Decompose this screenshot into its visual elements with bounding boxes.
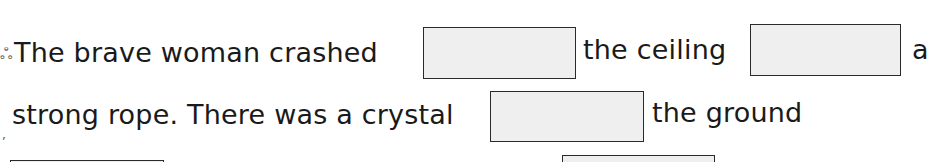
margin-mark: , (2, 128, 6, 142)
sentence-line1-part3: a (912, 34, 929, 66)
sentence-line2-part1: strong rope. There was a crystal (12, 99, 454, 131)
blank-input-4[interactable] (10, 160, 164, 162)
margin-doodle-icon: ஃ (0, 44, 13, 65)
sentence-line1-part1: The brave woman crashed (14, 37, 378, 69)
blank-input-1[interactable] (423, 27, 576, 79)
blank-input-3[interactable] (490, 91, 644, 142)
sentence-line2-part2: the ground (652, 97, 802, 129)
blank-input-2[interactable] (750, 24, 901, 76)
blank-input-5[interactable] (562, 155, 715, 162)
sentence-line1-part2: the ceiling (583, 34, 726, 66)
